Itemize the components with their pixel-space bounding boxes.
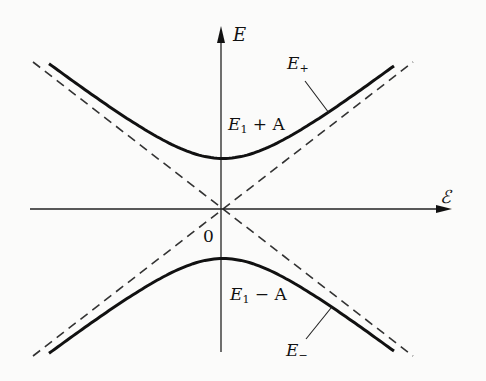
x-axis-label: ℰ xyxy=(440,188,451,206)
diagram-graphics xyxy=(0,0,486,381)
upper-level-label: E1 + A xyxy=(228,116,285,135)
e-minus-label: E− xyxy=(286,342,308,361)
energy-diagram: E ℰ 0 E+ E− E1 + A E1 − A xyxy=(0,0,486,381)
origin-label: 0 xyxy=(203,228,214,245)
y-axis-arrow-icon xyxy=(217,26,225,43)
e-plus-leader xyxy=(305,81,329,113)
e-minus-leader xyxy=(306,308,331,339)
e-plus-label: E+ xyxy=(287,55,309,74)
lower-level-label: E1 − A xyxy=(230,286,287,305)
y-axis-label: E xyxy=(233,26,246,44)
